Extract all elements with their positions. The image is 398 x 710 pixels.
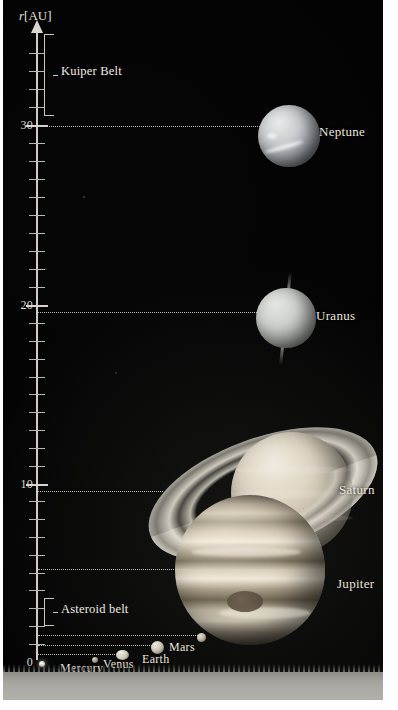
axis-tick <box>29 233 45 234</box>
solar-system-distance-figure: 30 20 10 0 r[AU] Kuiper Belt Asteroid be… <box>0 0 398 710</box>
label-uranus: Uranus <box>316 308 355 324</box>
neptune-cloud-streak <box>264 140 304 155</box>
axis-tick <box>29 143 45 144</box>
axis-tick-label-30: 30 <box>11 118 33 133</box>
kuiper-belt-label: Kuiper Belt <box>61 64 122 79</box>
axis-tick <box>29 626 45 627</box>
neptune-spot <box>267 133 277 139</box>
dust-speck <box>83 196 85 198</box>
axis-tick <box>29 341 45 342</box>
axis-tick <box>29 573 45 574</box>
label-jupiter: Jupiter <box>337 576 374 592</box>
r-axis-line <box>36 28 38 660</box>
label-mars: Mars <box>169 640 195 655</box>
axis-tick <box>29 179 45 180</box>
page-margin-right <box>383 0 398 710</box>
page-margin-left <box>0 0 3 710</box>
axis-tick <box>29 323 45 324</box>
axis-tick <box>29 412 45 413</box>
axis-title-unit-text: AU <box>28 8 47 23</box>
axis-tick <box>29 501 45 502</box>
orbit-line-saturn <box>38 491 163 492</box>
axis-tick <box>29 590 45 591</box>
jupiter-turbulence <box>191 547 301 557</box>
kuiper-belt-bracket <box>44 34 54 116</box>
axis-tick <box>29 215 45 216</box>
planet-uranus <box>256 288 316 348</box>
axis-tick <box>29 608 45 609</box>
orbit-line-venus <box>38 654 123 655</box>
page-margin-bottom <box>0 700 398 710</box>
axis-tick <box>29 107 45 108</box>
axis-tick <box>29 89 45 90</box>
axis-tick <box>29 394 45 395</box>
axis-title-bracket-close: ] <box>47 8 51 23</box>
planet-neptune <box>258 105 320 167</box>
axis-tick <box>29 430 45 431</box>
figure-plate: 30 20 10 0 r[AU] Kuiper Belt Asteroid be… <box>3 0 383 684</box>
axis-tick <box>29 377 45 378</box>
axis-tick <box>29 53 45 54</box>
axis-tick <box>29 466 45 467</box>
axis-tick <box>29 537 45 538</box>
axis-tick <box>29 359 45 360</box>
orbit-line-neptune <box>38 126 266 127</box>
asteroid-belt-label: Asteroid belt <box>61 602 129 617</box>
axis-tick-label-20: 20 <box>11 298 33 313</box>
axis-tick <box>29 448 45 449</box>
axis-tick <box>29 251 45 252</box>
axis-tick-label-10: 10 <box>11 477 33 492</box>
label-saturn: Saturn <box>339 482 375 498</box>
axis-tick <box>29 555 45 556</box>
axis-tick <box>29 519 45 520</box>
axis-tick <box>29 71 45 72</box>
axis-title: r[AU] <box>19 8 52 24</box>
planet-jupiter <box>175 495 325 645</box>
great-red-spot <box>227 591 263 612</box>
orbit-line-jupiter <box>38 569 188 570</box>
dust-speck <box>45 268 47 270</box>
axis-tick <box>29 287 45 288</box>
dust-speck <box>115 372 117 374</box>
axis-tick <box>29 269 45 270</box>
axis-tick <box>29 197 45 198</box>
orbit-line-mars <box>38 635 204 636</box>
orbit-line-uranus <box>38 312 263 313</box>
axis-tick <box>29 161 45 162</box>
label-neptune: Neptune <box>319 124 365 140</box>
asteroid-belt-bracket <box>44 598 54 626</box>
orbit-line-earth <box>38 645 158 646</box>
